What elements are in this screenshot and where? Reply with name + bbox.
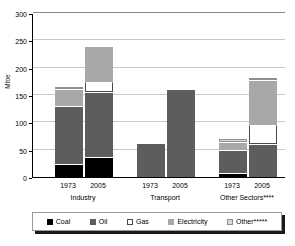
x-year-label-1: 2005 <box>81 182 115 190</box>
y-tick-label-50: 50 <box>0 147 27 154</box>
bar-segment-gas <box>249 125 277 144</box>
legend-swatch-gas-icon <box>127 219 133 225</box>
legend-label: Electricity <box>177 218 207 226</box>
legend-item-coal[interactable]: Coal <box>47 218 70 226</box>
plot-inner <box>33 14 285 177</box>
legend-item-electricity[interactable]: Electricity <box>168 218 207 226</box>
bar-other-sectors-1973[interactable] <box>219 139 247 177</box>
x-year-label-5: 2005 <box>245 182 279 190</box>
bar-segment-oil <box>85 92 113 158</box>
legend-item-other[interactable]: Other***** <box>227 218 267 226</box>
bar-segment-oil <box>249 144 277 177</box>
y-tick-mark-150 <box>29 96 32 97</box>
legend-swatch-oil-icon <box>90 219 96 225</box>
bar-industry-2005[interactable] <box>85 47 113 177</box>
chart-container: Mtoe 300250200150100500 1973200519732005… <box>0 0 295 246</box>
chart-legend: CoalOilGasElectricityOther***** <box>32 212 282 231</box>
bar-other-sectors-2005[interactable] <box>249 78 277 177</box>
x-year-label-2: 1973 <box>133 182 167 190</box>
bar-segment-oil <box>167 90 195 177</box>
x-year-label-3: 2005 <box>163 182 197 190</box>
bar-industry-1973[interactable] <box>55 87 83 177</box>
y-tick-mark-300 <box>29 14 32 15</box>
bar-segment-electricity <box>249 80 277 125</box>
bar-transport-2005[interactable] <box>167 90 195 177</box>
y-tick-label-100: 100 <box>0 120 27 127</box>
bar-transport-1973[interactable] <box>137 144 165 177</box>
legend-label: Coal <box>56 218 70 226</box>
bar-segment-electricity <box>85 47 113 82</box>
legend-item-list: CoalOilGasElectricityOther***** <box>33 213 281 230</box>
legend-shadow-bottom <box>35 231 285 234</box>
bar-segment-coal <box>55 164 83 178</box>
legend-label: Oil <box>99 218 108 226</box>
gridline-300 <box>33 12 285 13</box>
bar-segment-oil <box>55 106 83 163</box>
legend-label: Gas <box>136 218 149 226</box>
x-year-label-4: 1973 <box>215 182 249 190</box>
legend-swatch-other-icon <box>227 219 233 225</box>
legend-item-gas[interactable]: Gas <box>127 218 149 226</box>
y-tick-label-250: 250 <box>0 38 27 45</box>
y-tick-label-150: 150 <box>0 93 27 100</box>
bar-segment-electricity <box>55 89 83 106</box>
legend-item-oil[interactable]: Oil <box>90 218 108 226</box>
y-tick-mark-100 <box>29 123 32 124</box>
y-tick-mark-50 <box>29 151 32 152</box>
y-tick-mark-250 <box>29 41 32 42</box>
bar-segment-electricity <box>219 142 247 150</box>
y-tick-label-300: 300 <box>0 11 27 18</box>
plot-area <box>32 14 285 178</box>
y-tick-label-0: 0 <box>0 175 27 182</box>
bar-segment-oil <box>219 150 247 173</box>
bar-segment-coal <box>85 157 113 177</box>
x-group-label-transport: Transport <box>120 194 210 202</box>
bar-segment-oil <box>137 144 165 177</box>
x-group-label-other-sectors: Other Sectors**** <box>202 194 292 202</box>
legend-label: Other***** <box>236 218 267 226</box>
y-tick-mark-200 <box>29 69 32 70</box>
y-tick-label-200: 200 <box>0 65 27 72</box>
gridline-250 <box>33 39 285 40</box>
y-tick-mark-0 <box>29 178 32 179</box>
x-group-label-industry: Industry <box>38 194 128 202</box>
gridline-200 <box>33 67 285 68</box>
legend-swatch-electricity-icon <box>168 219 174 225</box>
bar-segment-coal <box>219 173 247 177</box>
x-year-label-0: 1973 <box>51 182 85 190</box>
bar-segment-gas <box>85 82 113 92</box>
legend-swatch-coal-icon <box>47 219 53 225</box>
